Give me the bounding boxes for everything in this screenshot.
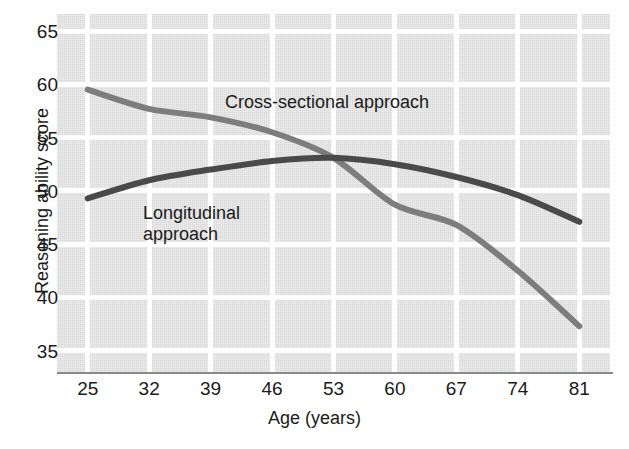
gridline-vertical: [208, 14, 213, 372]
gridline-vertical: [577, 14, 582, 372]
y-axis-title: Reasoning ability score: [33, 51, 51, 351]
x-tick-label: 67: [426, 378, 486, 400]
x-tick-label: 74: [488, 378, 548, 400]
gridline-vertical: [392, 14, 397, 372]
chart-figure: Cross-sectional approach Longitudinal ap…: [0, 0, 629, 449]
gridline-vertical: [270, 14, 275, 372]
x-axis-title: Age (years): [0, 408, 629, 428]
annotation-longitudinal: Longitudinal approach: [143, 203, 240, 245]
x-tick-label: 53: [304, 378, 364, 400]
gridline-vertical: [515, 14, 520, 372]
x-tick-label: 46: [242, 378, 302, 400]
annotation-cross-sectional: Cross-sectional approach: [225, 92, 429, 113]
y-tick-label: 65: [14, 22, 58, 41]
x-tick-label: 60: [365, 378, 425, 400]
plot-area: [57, 14, 610, 372]
x-tick-label: 25: [58, 378, 118, 400]
x-tick-label: 32: [119, 378, 179, 400]
x-axis-line: [57, 372, 613, 374]
gridline-vertical: [85, 14, 90, 372]
x-tick-label: 81: [549, 378, 609, 400]
gridline-vertical: [454, 14, 459, 372]
gridline-vertical: [331, 14, 336, 372]
gridline-vertical: [147, 14, 152, 372]
x-tick-label: 39: [181, 378, 241, 400]
